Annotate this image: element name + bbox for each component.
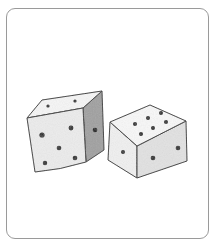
left-die [27, 91, 104, 172]
pip [176, 146, 181, 151]
pip [146, 116, 150, 120]
pip [46, 104, 49, 107]
pip [164, 120, 168, 124]
right-die [108, 105, 187, 178]
pip [43, 161, 47, 165]
pip [133, 122, 137, 126]
pip [73, 156, 78, 161]
pip [151, 156, 156, 161]
pip [159, 111, 163, 115]
pip [93, 128, 98, 133]
pip [73, 99, 76, 102]
pip [39, 132, 44, 137]
pip [151, 126, 155, 130]
pip [139, 132, 143, 136]
pip [121, 150, 125, 154]
pip [57, 146, 62, 151]
left-die-front-face [27, 108, 86, 172]
dice-illustration [0, 0, 216, 243]
pip [69, 126, 74, 131]
